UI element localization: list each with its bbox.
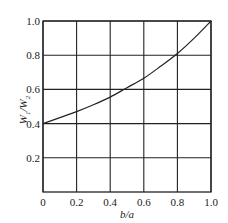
y-tick-label: 1.0 [26,15,40,27]
y-tick-label: 0.2 [26,152,40,164]
x-tick-labels: 00.20.40.60.81.0 [40,196,218,208]
x-tick-label: 0.4 [103,196,117,208]
chart: 0.20.40.60.81.0 00.20.40.60.81.0 b/a W1/… [0,0,228,223]
y-tick-labels: 0.20.40.60.81.0 [26,15,40,164]
x-tick-label: 0.8 [171,196,185,208]
x-tick-label: 0 [40,196,46,208]
x-tick-label: 0.2 [70,196,84,208]
y-tick-label: 0.6 [26,83,40,95]
x-tick-label: 1.0 [204,196,218,208]
x-axis-label: b/a [120,208,135,220]
data-line [43,21,211,124]
x-tick-label: 0.6 [137,196,151,208]
y-tick-label: 0.8 [26,49,40,61]
